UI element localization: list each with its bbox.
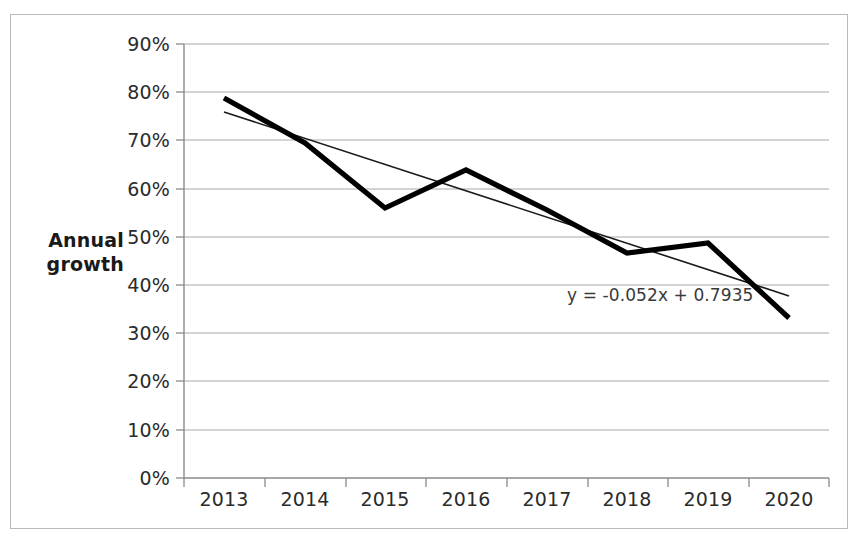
chart-container: Annual growth Annual growth 90% 80% 70% … [0,0,859,543]
gridlines [184,44,829,430]
x-axis-ticks [184,478,829,487]
x-tick-label-2018: 2018 [602,488,651,510]
trendline-equation: y = -0.052x + 0.7935 [567,285,754,305]
x-tick-label-2016: 2016 [441,488,490,510]
y-axis-ticks [176,44,184,478]
plot-area [0,0,859,543]
x-tick-label-2020: 2020 [764,488,813,510]
x-tick-label-2013: 2013 [199,488,248,510]
x-tick-label-2014: 2014 [280,488,329,510]
x-tick-label-2015: 2015 [360,488,409,510]
x-tick-label-2017: 2017 [522,488,571,510]
x-tick-label-2019: 2019 [683,488,732,510]
